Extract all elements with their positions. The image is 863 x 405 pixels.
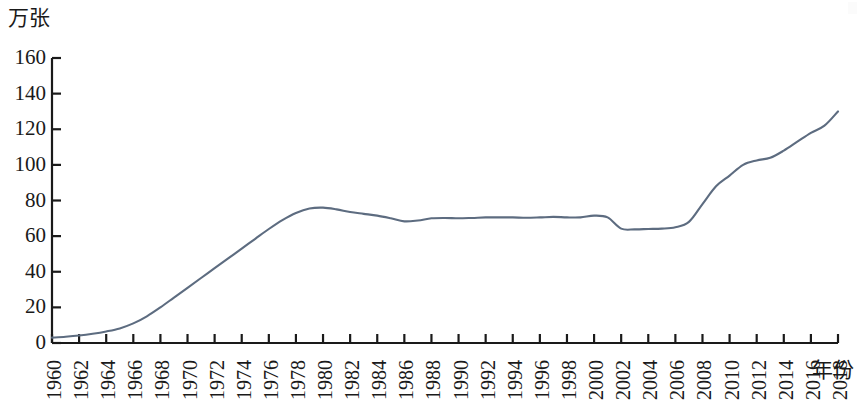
x-axis-ticks [52,334,838,343]
y-axis-ticks [52,58,61,343]
line-chart: 万张 年份 020406080100120140160 196019621964… [0,0,863,405]
plot-area [0,0,863,405]
data-series-line [52,111,838,337]
